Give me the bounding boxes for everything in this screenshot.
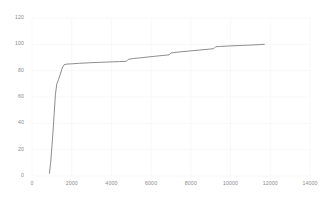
x-axis-tick-label: 4000	[105, 181, 117, 186]
y-axis-tick-label: 80	[0, 68, 24, 73]
chart-container: 020406080100120 020004000600080001000012…	[0, 0, 327, 197]
x-axis-tick-label: 8000	[185, 181, 197, 186]
y-axis-tick-label: 120	[0, 15, 24, 20]
x-axis-tick-label: 0	[30, 181, 33, 186]
x-axis-tick-label: 14000	[302, 181, 317, 186]
x-axis-tick-label: 10000	[223, 181, 238, 186]
y-axis-tick-label: 100	[0, 42, 24, 47]
data-series-line	[49, 44, 264, 173]
y-axis-tick-label: 60	[0, 94, 24, 99]
x-axis-tick-label: 6000	[145, 181, 157, 186]
y-axis-tick-label: 40	[0, 121, 24, 126]
x-axis-tick-label: 2000	[66, 181, 78, 186]
y-axis-tick-label: 0	[0, 173, 24, 178]
y-axis-tick-label: 20	[0, 147, 24, 152]
x-axis-tick-label: 12000	[263, 181, 278, 186]
horizontal-gridlines	[32, 18, 310, 176]
chart-plot-svg	[0, 0, 327, 197]
